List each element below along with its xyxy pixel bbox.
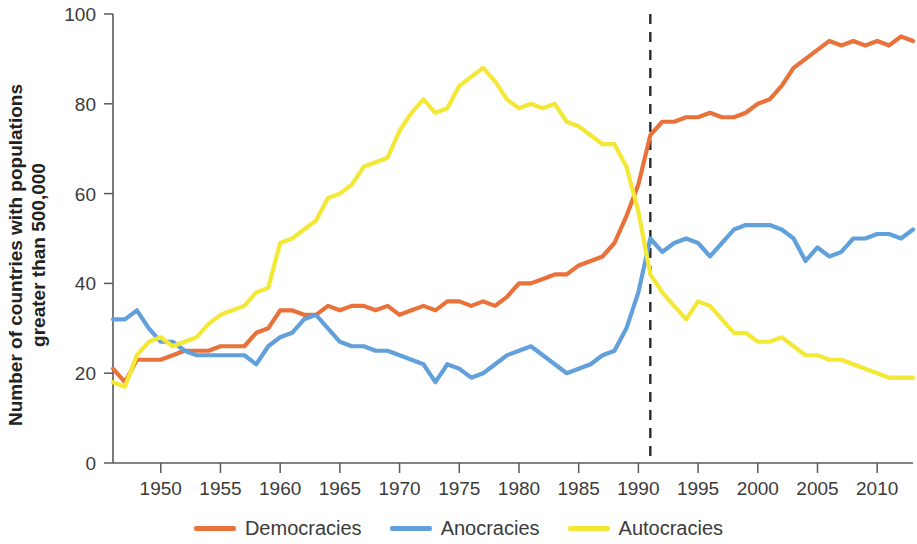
legend-item-anocracies[interactable]: Anocracies (390, 517, 540, 540)
y-tick-label: 40 (75, 273, 96, 294)
series-line-anocracies (113, 225, 913, 382)
y-tick-label: 20 (75, 363, 96, 384)
x-tick-label: 1955 (199, 478, 241, 499)
legend-item-autocracies[interactable]: Autocracies (568, 517, 724, 540)
line-chart: 020406080100 195019551960196519701975198… (0, 0, 917, 544)
y-axis-title-line2: greater than 500,000 (28, 163, 49, 347)
x-tick-label: 2005 (796, 478, 838, 499)
series-line-autocracies (113, 68, 913, 387)
x-tick-label: 1950 (140, 478, 182, 499)
series-line-democracies (113, 36, 913, 382)
legend-item-democracies[interactable]: Democracies (194, 517, 362, 540)
chart-legend: DemocraciesAnocraciesAutocracies (0, 517, 917, 540)
y-tick-label: 60 (75, 184, 96, 205)
x-tick-label: 1995 (677, 478, 719, 499)
x-tick-label: 1965 (319, 478, 361, 499)
series-group (113, 36, 913, 386)
y-tick-label: 80 (75, 94, 96, 115)
chart-page: 020406080100 195019551960196519701975198… (0, 0, 917, 544)
x-tick-label: 2000 (737, 478, 779, 499)
y-tick-label: 100 (64, 4, 96, 25)
y-axis-title-line1: Number of countries with populations (5, 84, 26, 426)
legend-label: Democracies (245, 517, 362, 540)
x-tick-label: 1970 (378, 478, 420, 499)
x-tick-label: 1985 (558, 478, 600, 499)
x-tick-label: 2010 (856, 478, 898, 499)
legend-swatch-icon (568, 526, 610, 531)
x-tick-label: 1980 (498, 478, 540, 499)
legend-swatch-icon (194, 526, 236, 531)
legend-swatch-icon (390, 526, 432, 531)
x-tick-label: 1960 (259, 478, 301, 499)
legend-label: Anocracies (441, 517, 540, 540)
x-axis-ticks: 1950195519601965197019751980198519901995… (140, 463, 899, 499)
legend-label: Autocracies (619, 517, 724, 540)
y-axis-ticks: 020406080100 (64, 4, 113, 474)
y-tick-label: 0 (85, 453, 96, 474)
x-tick-label: 1975 (438, 478, 480, 499)
x-tick-label: 1990 (617, 478, 659, 499)
